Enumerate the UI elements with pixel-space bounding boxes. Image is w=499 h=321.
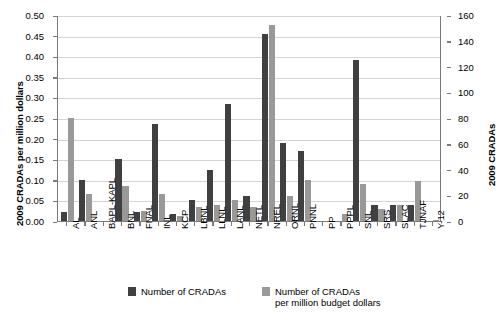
x-tick-mark [66, 222, 67, 226]
chart-legend: Number of CRADAsNumber of CRADAs per mil… [128, 286, 417, 308]
x-tick-mark [194, 222, 195, 226]
y-tick-label-right: 40 [458, 166, 469, 176]
y-tick-mark-right [447, 196, 451, 197]
bar-group [424, 16, 442, 221]
x-tick-mark [322, 222, 323, 226]
y-axis-right-title: 2009 CRADAs [486, 124, 497, 186]
legend-label: Number of CRADAs [141, 286, 226, 297]
bar-number-of-cradas [225, 104, 231, 221]
x-tick-label: NETL [253, 205, 264, 229]
bar-group [186, 16, 204, 221]
x-tick-label: FNAL [143, 205, 154, 229]
x-tick-mark [158, 222, 159, 226]
x-tick-label: SNL [362, 211, 373, 229]
y-tick-label-right: 120 [458, 63, 474, 73]
x-tick-label: TJNAF [417, 200, 428, 229]
x-tick-mark [139, 222, 140, 226]
x-tick-label: BAPL-KAPL [106, 178, 117, 229]
x-tick-mark [176, 222, 177, 226]
x-tick-mark [340, 222, 341, 226]
x-tick-label: PPPL [344, 205, 355, 229]
x-tick-label: PNNL [307, 204, 318, 229]
x-tick-label: LANL [234, 206, 245, 229]
bar-group [76, 16, 94, 221]
x-axis: ALANLBAPL-KAPLBNLFNALINLKCPLBNLLLNLLANLN… [57, 222, 441, 292]
y-tick-label-left: 0.35 [26, 73, 45, 83]
x-tick-mark [249, 222, 250, 226]
x-tick-label: ANL [88, 211, 99, 229]
bar-group [314, 16, 332, 221]
y-tick-mark-right [447, 144, 451, 145]
y-tick-label-right: 160 [458, 11, 474, 21]
x-tick-label: ORNL [289, 203, 300, 229]
y-axis-left-ticks: 0.000.050.100.150.200.250.300.350.400.45… [22, 0, 53, 321]
y-tick-label-right: 100 [458, 88, 474, 98]
y-tick-label-left: 0.40 [26, 52, 45, 62]
y-tick-label-left: 0.45 [26, 32, 45, 42]
x-tick-mark [359, 222, 360, 226]
x-tick-label: Y-12 [435, 210, 446, 229]
x-tick-mark [304, 222, 305, 226]
legend-item: Number of CRADAs per million budget doll… [262, 286, 381, 308]
legend-label: Number of CRADAs per million budget doll… [275, 286, 381, 308]
x-tick-label: INL [161, 215, 172, 229]
bar-cradas-per-million [68, 118, 74, 221]
x-tick-label: LBNL [198, 206, 209, 229]
y-tick-label-left: 0.50 [26, 11, 45, 21]
y-tick-label-right: 20 [458, 191, 469, 201]
y-tick-label-right: 140 [458, 37, 474, 47]
y-tick-mark-right [447, 41, 451, 42]
x-tick-label: BNL [125, 211, 136, 229]
bar-group [351, 16, 369, 221]
x-tick-mark [432, 222, 433, 226]
x-tick-label: PP [326, 217, 337, 229]
x-tick-label: SLAC [399, 205, 410, 229]
y-tick-label-left: 0.00 [26, 217, 45, 227]
bar-group [131, 16, 149, 221]
x-tick-mark [103, 222, 104, 226]
y-tick-mark-right [447, 119, 451, 120]
y-tick-label-right: 0 [458, 217, 463, 227]
legend-item: Number of CRADAs [128, 286, 226, 297]
x-tick-mark [212, 222, 213, 226]
bar-group [149, 16, 167, 221]
bar-group [369, 16, 387, 221]
y-tick-mark-right [447, 222, 451, 223]
bar-number-of-cradas [79, 180, 85, 221]
bar-group [296, 16, 314, 221]
y-axis-right-ticks: 020406080100120140160 [447, 0, 477, 321]
y-tick-label-right: 80 [458, 114, 469, 124]
bar-group [223, 16, 241, 221]
x-tick-mark [395, 222, 396, 226]
bar-group [332, 16, 350, 221]
bar-group [405, 16, 423, 221]
bar-number-of-cradas [61, 212, 67, 221]
x-tick-label: NREL [271, 204, 282, 229]
bar-group [241, 16, 259, 221]
bar-group [277, 16, 295, 221]
y-tick-label-left: 0.10 [26, 176, 45, 186]
y-tick-label-left: 0.25 [26, 114, 45, 124]
x-tick-mark [286, 222, 287, 226]
x-tick-mark [84, 222, 85, 226]
x-tick-mark [377, 222, 378, 226]
y-tick-mark-right [447, 67, 451, 68]
bar-group [387, 16, 405, 221]
y-tick-label-left: 0.15 [26, 155, 45, 165]
y-tick-label-left: 0.30 [26, 93, 45, 103]
x-tick-label: AL [70, 218, 81, 229]
bar-cradas-per-million [269, 25, 275, 221]
x-tick-mark [267, 222, 268, 226]
legend-swatch [262, 287, 270, 296]
bar-number-of-cradas [262, 34, 268, 221]
x-tick-mark [414, 222, 415, 226]
y-tick-mark-right [447, 93, 451, 94]
cradas-bar-chart: 2009 CRADAs per million dollars 2009 CRA… [0, 0, 499, 321]
x-tick-mark [121, 222, 122, 226]
bar-group [259, 16, 277, 221]
bar-group [58, 16, 76, 221]
y-tick-mark-right [447, 16, 451, 17]
legend-swatch [128, 287, 136, 296]
bar-number-of-cradas [353, 60, 359, 221]
x-tick-mark [231, 222, 232, 226]
